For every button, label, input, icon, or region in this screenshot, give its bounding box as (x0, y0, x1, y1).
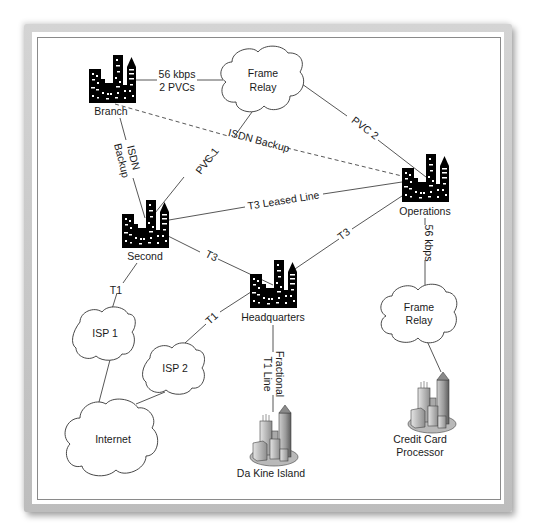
cloud-frame-relay-top-line1: Frame (248, 67, 278, 79)
city-building-icon (89, 55, 136, 103)
node-operations: Operations (399, 154, 450, 217)
link-hq-isp2-b (185, 324, 206, 343)
cloud-frame-relay-bottom: Frame Relay (381, 284, 457, 343)
link-hq-operations-b (352, 196, 402, 229)
label-2pvcs: 2 PVCs (159, 81, 195, 93)
label-isdn-backup-dashed: ISDN Backup (227, 126, 291, 154)
label-t3-leased-line: T3 Leased Line (247, 188, 321, 211)
3d-city-icon (408, 372, 456, 433)
cloud-frame-relay-top: Frame Relay (221, 46, 304, 112)
node-credit-card-processor: Credit Card Processor (393, 372, 456, 458)
node-second: Second (122, 200, 169, 262)
node-da-kine-island: Da Kine Island (237, 405, 305, 479)
label-t1-line: T1 Line (262, 356, 274, 391)
link-branch-operations-dashed (115, 104, 228, 136)
link-second-hq-b (218, 259, 273, 285)
link-frame-operations (302, 84, 347, 116)
node-second-label: Second (127, 250, 163, 262)
node-headquarters: Headquarters (241, 260, 305, 323)
link-second-isp1 (123, 263, 137, 283)
link-second-operations (169, 207, 245, 220)
cloud-isp1: ISP 1 (73, 307, 136, 360)
label-fractional: Fractional (274, 351, 286, 397)
node-ccp-line2: Processor (396, 446, 444, 458)
link-second-hq (168, 236, 200, 252)
label-t1-isp1: T1 (110, 284, 122, 296)
link-branch-second-b (133, 178, 145, 218)
link-second-operations-b (323, 182, 402, 194)
cloud-frame-relay-bottom-line1: Frame (404, 301, 434, 313)
cloud-isp2-label: ISP 2 (162, 362, 188, 374)
link-hq-operations (292, 239, 339, 271)
link-branch-operations-dashed-b (287, 148, 402, 176)
cloud-internet: Internet (65, 399, 158, 476)
label-pvc1: PVC 1 (193, 145, 221, 176)
link-isp1-internet (99, 356, 111, 402)
cloud-isp2: ISP 2 (143, 343, 205, 394)
cloud-isp1-label: ISP 1 (92, 327, 118, 339)
label-56kbps-right: 56 kbps (423, 225, 435, 262)
city-building-icon (402, 154, 449, 202)
node-operations-label: Operations (399, 205, 450, 217)
link-frame-second-c (155, 177, 184, 213)
link-isp2-internet (136, 392, 165, 404)
cloud-frame-relay-top-line2: Relay (250, 81, 278, 93)
label-56kbps-top: 56 kbps (159, 68, 196, 80)
cloud-frame-relay-bottom-line2: Relay (406, 314, 434, 326)
link-frame2-ccp (427, 341, 441, 372)
node-ccp-line1: Credit Card (393, 433, 447, 445)
network-diagram: 56 kbps 2 PVCs ISDN Backup ISDN Backup P… (0, 0, 534, 531)
node-branch-label: Branch (94, 105, 127, 117)
node-da-kine-island-label: Da Kine Island (237, 467, 305, 479)
node-headquarters-label: Headquarters (241, 311, 305, 323)
link-branch-second (120, 118, 126, 140)
cloud-internet-label: Internet (95, 433, 131, 445)
3d-city-icon (250, 405, 298, 466)
label-t3-second-hq: T3 (204, 247, 221, 263)
label-pvc2: PVC 2 (350, 114, 382, 142)
city-building-icon (250, 260, 297, 308)
city-building-icon (122, 200, 169, 248)
link-hq-isp2 (220, 290, 254, 312)
